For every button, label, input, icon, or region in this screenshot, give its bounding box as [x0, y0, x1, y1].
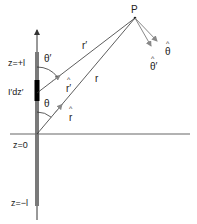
r-line: [37, 18, 135, 134]
r-prime-label: r′: [82, 40, 87, 51]
theta-arc: [37, 112, 51, 117]
antenna-rod: [35, 52, 39, 206]
r-hat-vector: [55, 104, 62, 112]
z-origin-label: z=0: [13, 140, 28, 150]
antenna-diagram: P z=+l I′dz′ z=0 z=−l θ′ θ r′ r ^ r′ ^ r…: [0, 0, 197, 224]
theta-prime-hat-label: θ′: [150, 61, 158, 72]
z-bottom-label: z=−l: [11, 198, 28, 208]
r-hat-mark: ^: [69, 105, 73, 112]
current-element-label: I′dz′: [8, 87, 24, 97]
r-label: r: [95, 73, 99, 84]
z-top-label: z=+l: [8, 58, 25, 68]
r-prime-hat-label: r′: [66, 83, 71, 94]
theta-label: θ: [44, 98, 50, 109]
current-element: [35, 80, 40, 101]
theta-prime-label: θ′: [44, 53, 52, 64]
r-prime-hat-mark: ^: [67, 76, 71, 83]
r-prime-hat-vector: [52, 75, 60, 81]
theta-hat-label: θ: [165, 46, 171, 57]
r-hat-label: r: [69, 112, 73, 123]
r-prime-line: [37, 18, 135, 93]
theta-prime-arc: [37, 67, 58, 77]
point-p-label: P: [131, 4, 138, 15]
